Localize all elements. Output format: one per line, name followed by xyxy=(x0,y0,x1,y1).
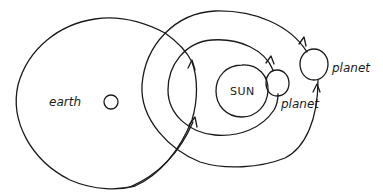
inner-planet: planet xyxy=(266,70,320,111)
sun: SUN xyxy=(216,65,268,117)
earth-sight-line xyxy=(130,60,197,187)
outer-planet-label: planet xyxy=(331,61,371,75)
inner-planet-circle xyxy=(266,70,289,96)
earth-circle xyxy=(104,95,118,109)
inner-planet-label: planet xyxy=(280,97,320,111)
outer-orbit-arrow-lower xyxy=(313,84,320,92)
sun-label: SUN xyxy=(230,85,255,98)
earth: earth xyxy=(49,95,118,109)
orbit-diagram: SUN earth planet planet xyxy=(0,0,383,194)
inner-orbit xyxy=(168,40,278,135)
earth-label: earth xyxy=(49,95,81,109)
outer-planet-circle xyxy=(300,49,328,80)
sight-arrow-upper xyxy=(188,60,195,70)
outer-planet: planet xyxy=(300,49,371,80)
